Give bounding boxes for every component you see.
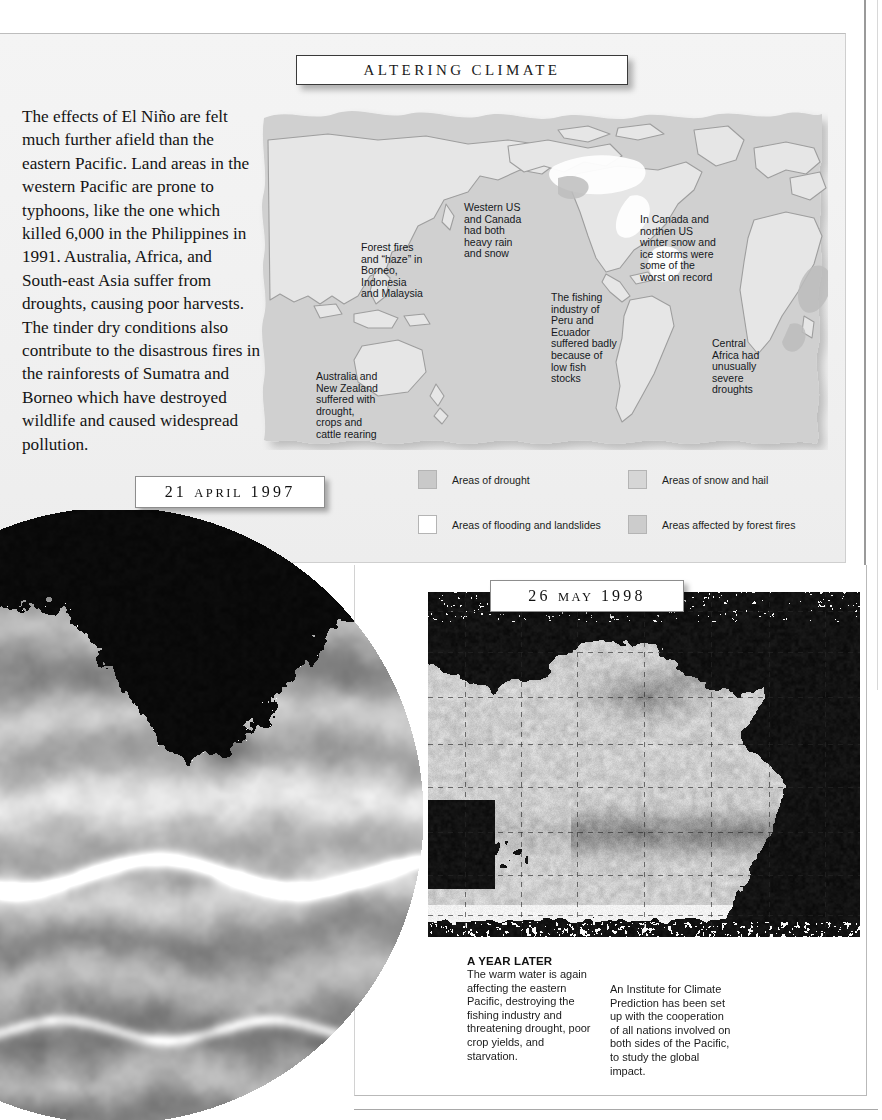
date-banner-1997: 21 APRIL 1997 (135, 476, 325, 508)
page-title: ALTERING CLIMATE (364, 62, 561, 79)
legend-item-forest-fires: Areas affected by forest fires (628, 515, 795, 534)
caption-column-2: An Institute for Climate Prediction has … (610, 968, 735, 1078)
legend-label-flooding: Areas of flooding and landslides (452, 519, 601, 531)
article-body: The effects of El Niño are felt much fur… (22, 105, 262, 456)
legend-swatch-drought (418, 470, 437, 489)
caption-heading: A YEAR LATER (467, 955, 737, 967)
legend-item-drought: Areas of drought (418, 470, 530, 489)
map-label-western-us: Western US and Canada had both heavy rai… (464, 202, 521, 260)
caption-block: A YEAR LATER The warm water is again aff… (467, 955, 737, 1078)
map-label-central-africa: Central Africa had unusually severe drou… (712, 338, 759, 396)
page-title-banner: ALTERING CLIMATE (296, 55, 628, 85)
map-label-australia: Australia and New Zealand suffered with … (316, 371, 378, 441)
map-label-canada: In Canada and northen US winter snow and… (640, 214, 716, 284)
satellite-map-1998 (428, 592, 860, 937)
legend-item-snow-hail: Areas of snow and hail (628, 470, 768, 489)
legend-swatch-forest-fires (628, 515, 647, 534)
caption-column-1: The warm water is again affecting the ea… (467, 968, 592, 1078)
date-label-1997: 21 APRIL 1997 (165, 483, 296, 501)
map-legend: Areas of drought Areas of flooding and l… (418, 470, 818, 540)
page-right-rule-outer (877, 0, 878, 690)
legend-swatch-snow-hail (628, 470, 647, 489)
satellite-globe-1997 (0, 510, 470, 1120)
legend-label-drought: Areas of drought (452, 474, 530, 486)
legend-label-forest-fires: Areas affected by forest fires (662, 519, 795, 531)
legend-label-snow-hail: Areas of snow and hail (662, 474, 768, 486)
map-label-borneo: Forest fires and “haze” in Borneo, Indon… (361, 242, 423, 300)
date-banner-1998: 26 MAY 1998 (490, 580, 684, 612)
map-label-peru: The fishing industry of Peru and Ecuador… (551, 292, 617, 385)
date-label-1998: 26 MAY 1998 (528, 587, 645, 605)
